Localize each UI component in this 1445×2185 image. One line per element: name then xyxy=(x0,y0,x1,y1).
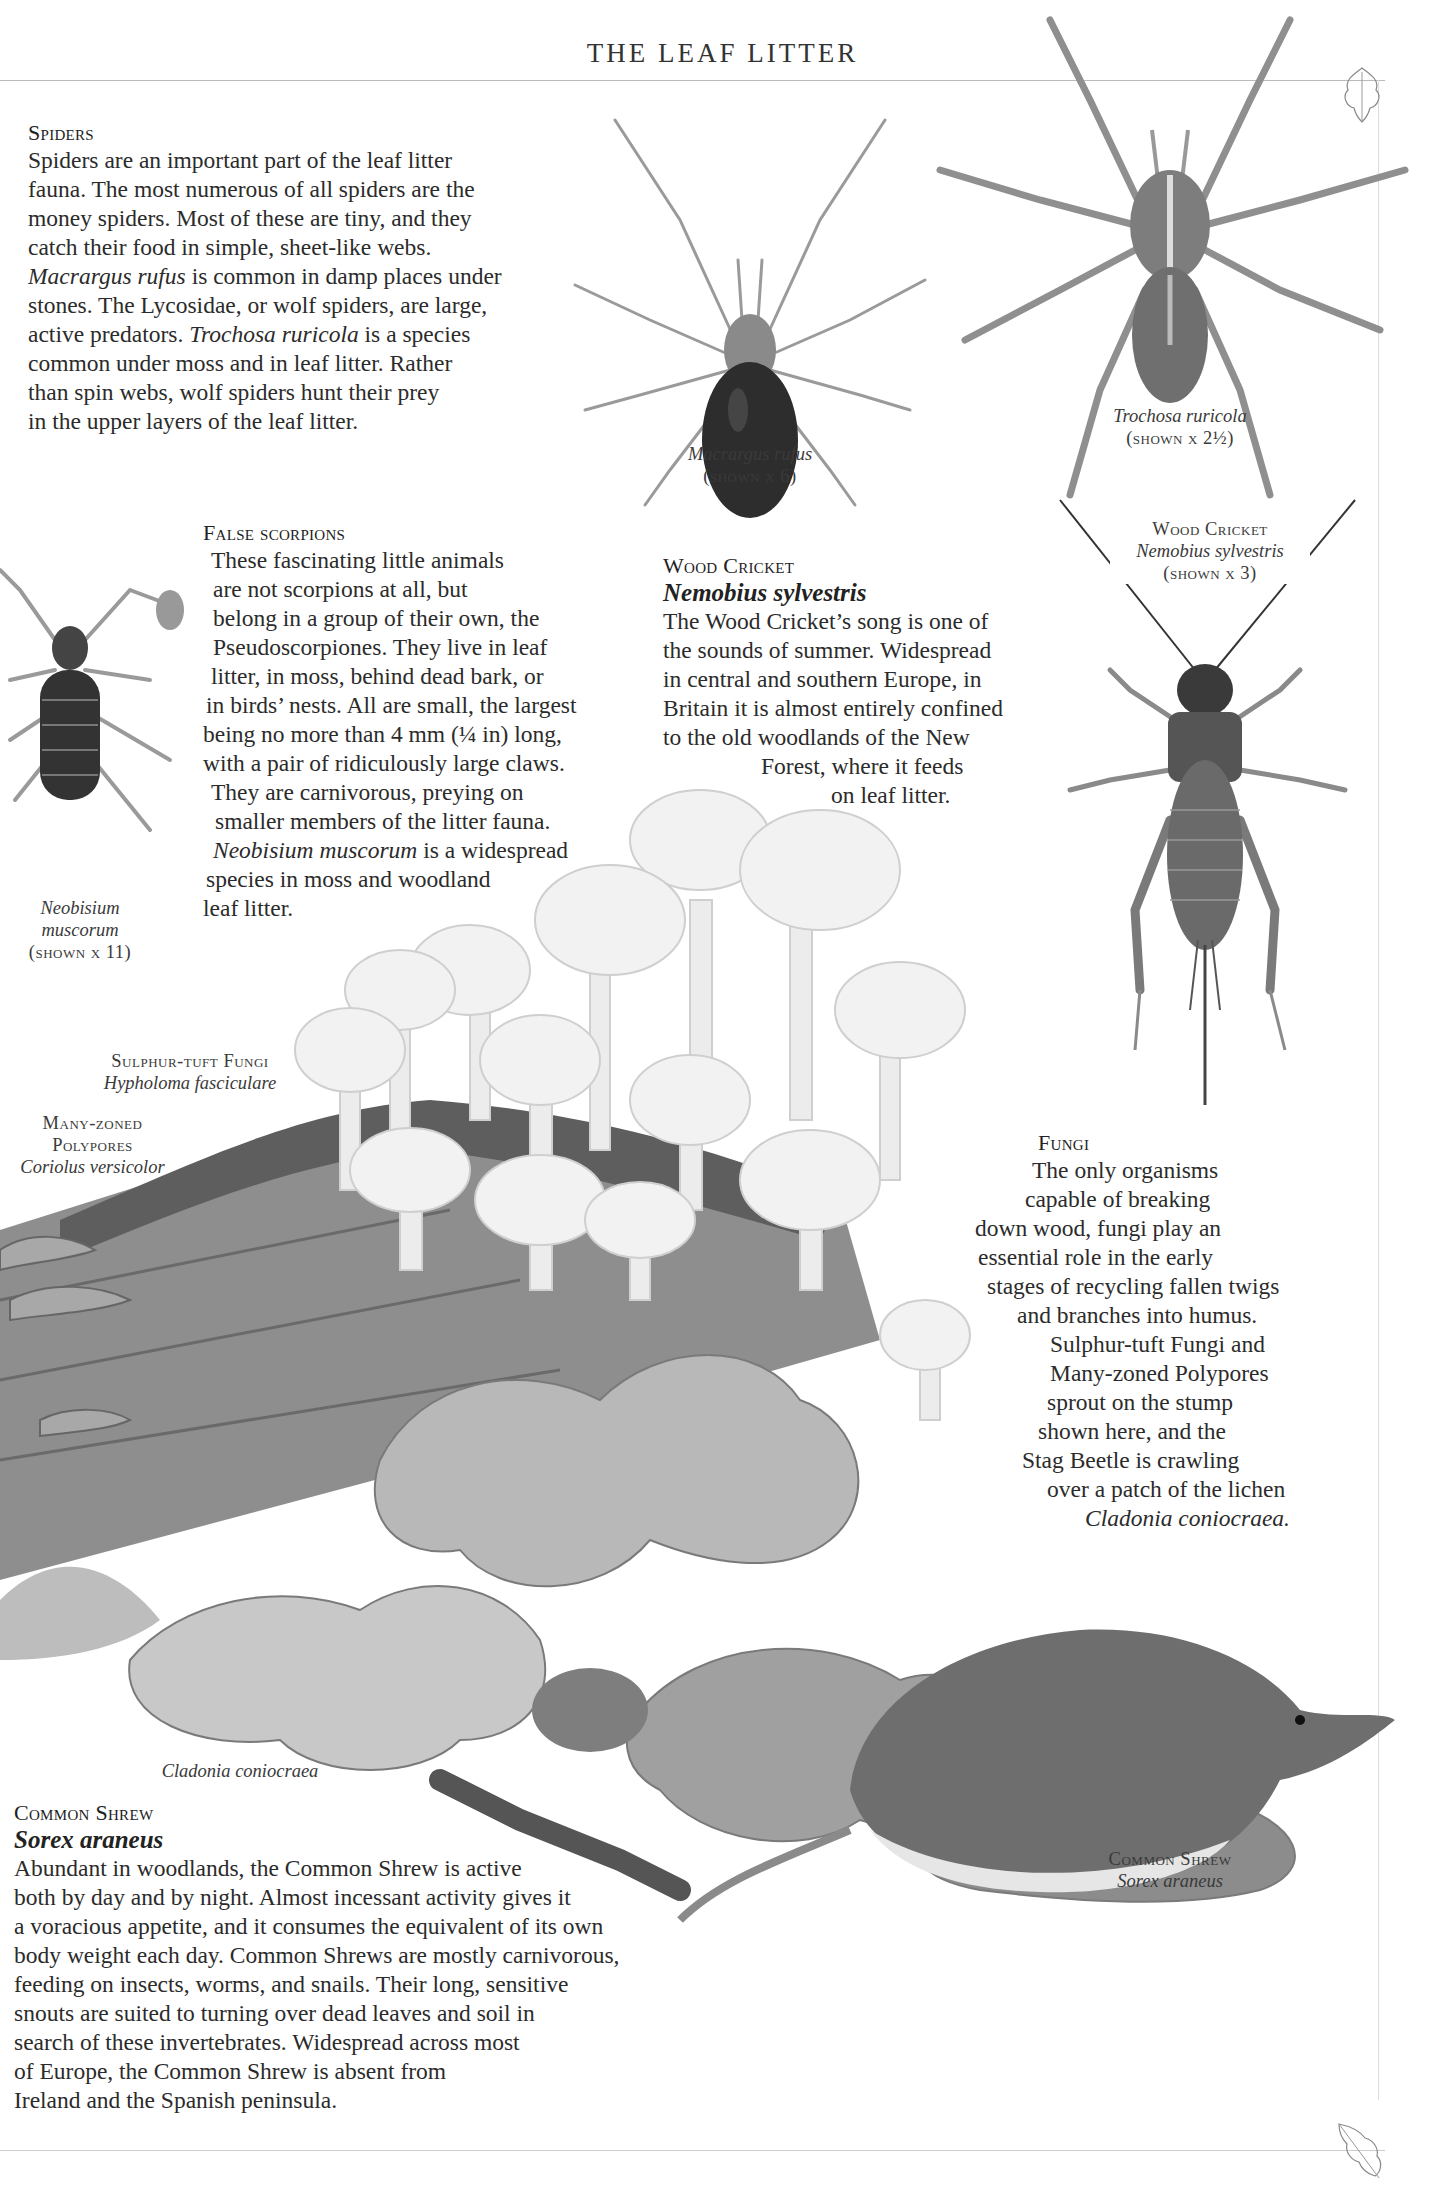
body-line: being no more than 4 mm (¼ in) long, xyxy=(203,720,577,749)
body-text: active predators. xyxy=(28,321,189,347)
oak-leaf-ornament-icon xyxy=(1335,2120,1385,2180)
body-line: stages of recycling fallen twigs xyxy=(975,1272,1290,1301)
species-name: Trochosa ruricola xyxy=(1060,405,1300,427)
body-line: The Wood Cricket’s song is one of xyxy=(663,607,1003,636)
shrew-caption: Common Shrew Sorex araneus xyxy=(1060,1848,1280,1892)
spiders-body: Spiders are an important part of the lea… xyxy=(28,146,502,436)
common-shrew-section: Common Shrew Sorex araneus Abundant in w… xyxy=(14,1800,619,2115)
trochosa-caption: Trochosa ruricola (shown x 2½) xyxy=(1060,405,1300,449)
species-name: Sorex araneus xyxy=(1060,1870,1280,1892)
fungi-heading: Fungi xyxy=(975,1130,1290,1156)
body-line: and branches into humus. xyxy=(975,1301,1290,1330)
species-name: Nemobius sylvestris xyxy=(1110,540,1310,562)
polypores-caption: Many-zoned Polypores Coriolus versicolor xyxy=(10,1112,175,1178)
body-text: is a species xyxy=(359,321,471,347)
common-name: Wood Cricket xyxy=(1110,518,1310,540)
wood-cricket-heading: Wood Cricket xyxy=(663,553,1003,579)
common-name: Many-zoned xyxy=(10,1112,175,1134)
species-name: Cladonia coniocraea. xyxy=(1085,1505,1290,1531)
scale-note: (shown x 6) xyxy=(620,465,880,487)
spiders-heading: Spiders xyxy=(28,120,502,146)
body-line: Ireland and the Spanish peninsula. xyxy=(14,2086,619,2115)
body-line: the sounds of summer. Widespread xyxy=(663,636,1003,665)
body-line: with a pair of ridiculously large claws. xyxy=(203,749,577,778)
body-line: over a patch of the lichen xyxy=(975,1475,1290,1504)
body-line: feeding on insects, worms, and snails. T… xyxy=(14,1970,619,1999)
common-shrew-scientific-name: Sorex araneus xyxy=(14,1826,619,1854)
scale-note: (shown x 2½) xyxy=(1060,427,1300,449)
cladonia-caption: Cladonia coniocraea xyxy=(120,1760,360,1782)
fungi-body: The only organisms capable of breaking d… xyxy=(975,1156,1290,1533)
common-name: Polypores xyxy=(10,1134,175,1156)
body-line: search of these invertebrates. Widesprea… xyxy=(14,2028,619,2057)
macrargus-caption: Macrargus rufus (shown x 6) xyxy=(620,443,880,487)
common-shrew-body: Abundant in woodlands, the Common Shrew … xyxy=(14,1854,619,2115)
body-line: Sulphur-tuft Fungi and xyxy=(975,1330,1290,1359)
body-line: These fascinating little animals xyxy=(203,546,577,575)
body-line: sprout on the stump xyxy=(975,1388,1290,1417)
body-line: a voracious appetite, and it consumes th… xyxy=(14,1912,619,1941)
species-name: Trochosa ruricola xyxy=(189,321,359,347)
wood-cricket-caption: Wood Cricket Nemobius sylvestris (shown … xyxy=(1110,518,1310,584)
body-line: active predators. Trochosa ruricola is a… xyxy=(28,320,502,349)
body-line: belong in a group of their own, the xyxy=(203,604,577,633)
footer-rule xyxy=(0,2150,1385,2151)
species-name: Hypholoma fasciculare xyxy=(80,1072,300,1094)
body-line: in birds’ nests. All are small, the larg… xyxy=(203,691,577,720)
common-name: Common Shrew xyxy=(1060,1848,1280,1870)
common-shrew-heading: Common Shrew xyxy=(14,1800,619,1826)
species-name: Coriolus versicolor xyxy=(10,1156,175,1178)
body-line: Many-zoned Polypores xyxy=(975,1359,1290,1388)
wood-cricket-scientific-name: Nemobius sylvestris xyxy=(663,579,1003,607)
body-line: Abundant in woodlands, the Common Shrew … xyxy=(14,1854,619,1883)
fungi-section: Fungi The only organisms capable of brea… xyxy=(975,1130,1290,1533)
body-line: body weight each day. Common Shrews are … xyxy=(14,1941,619,1970)
body-line: litter, in moss, behind dead bark, or xyxy=(203,662,577,691)
body-line: Cladonia coniocraea. xyxy=(975,1504,1290,1533)
spiders-section: Spiders Spiders are an important part of… xyxy=(28,120,502,436)
body-line: shown here, and the xyxy=(975,1417,1290,1446)
species-name: Macrargus rufus xyxy=(620,443,880,465)
body-line: than spin webs, wolf spiders hunt their … xyxy=(28,378,502,407)
body-line: common under moss and in leaf litter. Ra… xyxy=(28,349,502,378)
body-line: Spiders are an important part of the lea… xyxy=(28,146,502,175)
body-line: The only organisms xyxy=(975,1156,1290,1185)
body-line: Forest, where it feeds xyxy=(663,752,1003,781)
body-line: money spiders. Most of these are tiny, a… xyxy=(28,204,502,233)
false-scorpions-heading: False scorpions xyxy=(203,520,577,546)
common-name: Sulphur-tuft Fungi xyxy=(80,1050,300,1072)
body-line: essential role in the early xyxy=(975,1243,1290,1272)
species-name: Cladonia coniocraea xyxy=(120,1760,360,1782)
body-line: snouts are suited to turning over dead l… xyxy=(14,1999,619,2028)
body-line: Pseudoscorpiones. They live in leaf xyxy=(203,633,577,662)
sulphur-tuft-caption: Sulphur-tuft Fungi Hypholoma fasciculare xyxy=(80,1050,300,1094)
species-name: Macrargus rufus xyxy=(28,263,186,289)
body-line: stones. The Lycosidae, or wolf spiders, … xyxy=(28,291,502,320)
body-line: fauna. The most numerous of all spiders … xyxy=(28,175,502,204)
body-line: capable of breaking xyxy=(975,1185,1290,1214)
body-line: to the old woodlands of the New xyxy=(663,723,1003,752)
body-line: catch their food in simple, sheet-like w… xyxy=(28,233,502,262)
body-line: are not scorpions at all, but xyxy=(203,575,577,604)
body-text: is common in damp places under xyxy=(186,263,502,289)
body-line: down wood, fungi play an xyxy=(975,1214,1290,1243)
body-line: of Europe, the Common Shrew is absent fr… xyxy=(14,2057,619,2086)
wood-cricket-section: Wood Cricket Nemobius sylvestris The Woo… xyxy=(663,553,1003,810)
body-line: Macrargus rufus is common in damp places… xyxy=(28,262,502,291)
body-line: both by day and by night. Almost incessa… xyxy=(14,1883,619,1912)
scale-note: (shown x 3) xyxy=(1110,562,1310,584)
body-line: Stag Beetle is crawling xyxy=(975,1446,1290,1475)
body-line: in central and southern Europe, in xyxy=(663,665,1003,694)
body-line: Britain it is almost entirely confined xyxy=(663,694,1003,723)
body-line: in the upper layers of the leaf litter. xyxy=(28,407,502,436)
